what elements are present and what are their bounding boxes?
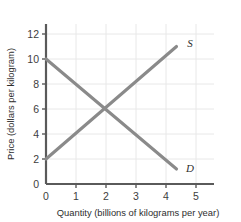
curve-label-group: SD	[185, 37, 194, 175]
y-axis-title: Price (dollars per kilogram)	[5, 48, 16, 160]
y-tick-label: 6	[33, 103, 39, 115]
chart-canvas: 024681012 012345 SD Quantity (billions o…	[0, 0, 241, 222]
x-tick-label: 0	[43, 190, 49, 202]
x-tick-label: 3	[133, 190, 139, 202]
curve-d	[46, 59, 177, 169]
x-axis-title: Quantity (billions of kilograms per year…	[57, 207, 220, 218]
y-tick-label: 2	[33, 153, 39, 165]
y-tick-label: 0	[33, 178, 39, 190]
x-tick-group: 012345	[43, 184, 199, 202]
y-tick-label: 10	[27, 53, 39, 65]
x-tick-label: 4	[163, 190, 169, 202]
supply-demand-chart: 024681012 012345 SD Quantity (billions o…	[0, 0, 241, 222]
x-tick-label: 5	[193, 190, 199, 202]
curve-s	[46, 47, 177, 160]
y-tick-label: 12	[27, 28, 39, 40]
y-tick-group: 024681012	[27, 28, 46, 190]
x-tick-label: 1	[73, 190, 79, 202]
x-tick-label: 2	[103, 190, 109, 202]
curves-group	[46, 47, 177, 170]
y-tick-label: 8	[33, 78, 39, 90]
y-tick-label: 4	[33, 128, 39, 140]
curve-label-d: D	[185, 162, 194, 174]
curve-label-s: S	[187, 37, 193, 49]
